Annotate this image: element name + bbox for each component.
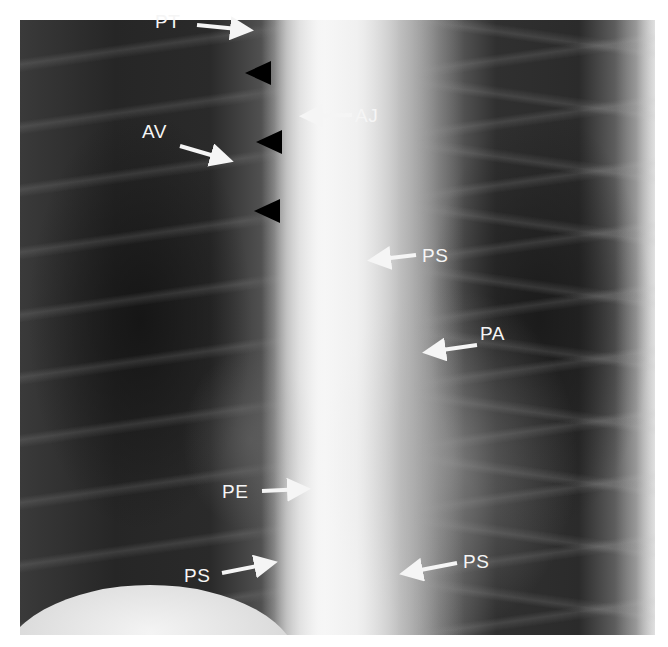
arrow-ps-lower-right-icon	[405, 563, 457, 573]
label-ps-lower-right: PS	[463, 552, 489, 571]
arrow-ps-upper-icon	[373, 255, 416, 260]
arrow-av-icon	[180, 146, 228, 160]
annotation-overlay	[0, 0, 668, 647]
label-pe: PE	[222, 482, 248, 501]
label-pa: PA	[480, 324, 505, 343]
label-ps-lower-left: PS	[184, 566, 210, 585]
arrowhead-markers	[245, 61, 282, 223]
arrow-pt-icon	[197, 25, 248, 30]
label-ps-upper: PS	[422, 246, 448, 265]
arrow-aj-icon	[305, 115, 352, 116]
arrow-pe-icon	[262, 489, 305, 491]
arrow-pa-icon	[428, 345, 477, 352]
arrowhead-1-icon	[245, 61, 271, 85]
arrow-ps-lower-left-icon	[222, 563, 272, 573]
label-av: AV	[142, 122, 167, 141]
arrowhead-2-icon	[256, 130, 282, 154]
label-aj: AJ	[355, 106, 378, 125]
label-pt: PT	[155, 12, 180, 31]
arrowhead-3-icon	[254, 199, 280, 223]
